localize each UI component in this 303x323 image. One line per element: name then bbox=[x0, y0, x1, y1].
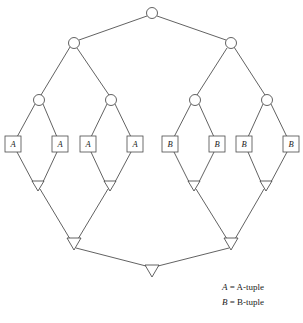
legend-equals-a: = bbox=[228, 282, 237, 292]
edge-r2b-boxb4 bbox=[271, 104, 287, 137]
node-circle-l2b[interactable] bbox=[106, 95, 117, 106]
box-node-group: A A A A B B B B bbox=[5, 136, 299, 152]
node-circle-root[interactable] bbox=[147, 8, 158, 19]
node-box-b3-label: B bbox=[241, 139, 246, 149]
circle-node-group bbox=[34, 8, 273, 106]
edge-boxa4-tl3b bbox=[115, 152, 131, 182]
edge-l2b-boxa3 bbox=[91, 104, 107, 137]
node-circle-r2a[interactable] bbox=[190, 95, 201, 106]
edge-l1-l2b bbox=[77, 48, 109, 95]
edge-root-right bbox=[157, 16, 226, 40]
edge-boxb2-tr3a bbox=[199, 152, 214, 182]
edge-l2a-boxa2 bbox=[43, 104, 57, 137]
legend: A = A-tuple B = B-tuple bbox=[222, 280, 300, 310]
legend-row-b: B = B-tuple bbox=[222, 295, 300, 310]
edge-r2b-boxb3 bbox=[248, 104, 263, 137]
edge-boxb3-tr3b bbox=[248, 152, 261, 182]
edge-l1-l2a bbox=[41, 47, 70, 95]
node-circle-l1[interactable] bbox=[69, 38, 80, 49]
node-triangle-r4[interactable] bbox=[224, 238, 238, 250]
edge-r2a-boxb2 bbox=[199, 104, 214, 137]
node-triangle-l4[interactable] bbox=[67, 238, 81, 250]
legend-row-a: A = A-tuple bbox=[222, 280, 300, 295]
node-box-a4-label: A bbox=[131, 139, 138, 149]
node-box-a3-label: A bbox=[84, 139, 91, 149]
diagram-canvas: A A A A B B B B A = A-tuple B = B-tuple bbox=[0, 0, 303, 323]
node-triangle-root[interactable] bbox=[145, 265, 159, 277]
node-box-a1-label: A bbox=[9, 139, 16, 149]
graph-svg: A A A A B B B B bbox=[0, 0, 303, 323]
node-box-b1-label: B bbox=[167, 139, 172, 149]
edge-tr3b-tr4 bbox=[235, 189, 264, 239]
edge-boxb4-tr3b bbox=[271, 152, 287, 182]
edge-boxa1-tl3a bbox=[17, 152, 33, 182]
node-box-a2-label: A bbox=[56, 139, 63, 149]
edge-r2a-boxb1 bbox=[174, 104, 191, 137]
triangle-node-group bbox=[32, 181, 272, 277]
edge-tr4-troot bbox=[158, 248, 229, 266]
edge-tr3a-tr4 bbox=[196, 189, 227, 239]
node-triangle-l3a[interactable] bbox=[32, 181, 44, 191]
edge-boxa3-tl3b bbox=[91, 152, 105, 182]
edge-r1-r2a bbox=[197, 48, 227, 95]
legend-text-a: A-tuple bbox=[237, 282, 265, 292]
node-circle-r1[interactable] bbox=[226, 38, 237, 49]
node-triangle-l3b[interactable] bbox=[104, 181, 116, 191]
edge-boxb1-tr3a bbox=[174, 152, 189, 182]
edge-boxa2-tl3a bbox=[43, 152, 57, 182]
edge-tl3b-tl4 bbox=[78, 189, 108, 239]
legend-equals-b: = bbox=[228, 297, 238, 307]
node-triangle-r3a[interactable] bbox=[188, 181, 200, 191]
edge-tl4-troot bbox=[76, 248, 146, 266]
node-circle-l2a[interactable] bbox=[34, 95, 45, 106]
node-circle-r2b[interactable] bbox=[262, 95, 273, 106]
edge-l2a-boxa1 bbox=[17, 104, 35, 137]
edge-r1-r2b bbox=[234, 47, 265, 95]
edge-tl3a-tl4 bbox=[40, 189, 70, 239]
node-box-b2-label: B bbox=[214, 139, 219, 149]
edge-l2b-boxa4 bbox=[115, 104, 131, 137]
edge-root-left bbox=[79, 16, 147, 40]
node-triangle-r3b[interactable] bbox=[260, 181, 272, 191]
legend-text-b: B-tuple bbox=[237, 297, 264, 307]
node-box-b4-label: B bbox=[288, 139, 293, 149]
